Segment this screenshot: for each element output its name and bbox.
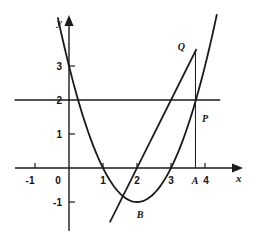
parabola-curve (58, 14, 217, 202)
x-tick-label-3: 3 (168, 175, 174, 186)
x-axis-label: x (235, 172, 242, 184)
x-axis-ticks (35, 163, 205, 168)
point-label-Q: Q (178, 41, 185, 52)
y-axis-label: y (55, 16, 62, 28)
graph-figure: y x -1 0 1 2 3 4 -1 1 2 3 A B P Q (0, 0, 257, 241)
y-tick-label--1: -1 (53, 197, 62, 208)
x-tick-label--1: -1 (26, 175, 35, 186)
point-label-B: B (136, 209, 144, 220)
x-tick-label-4: 4 (203, 175, 209, 186)
y-tick-label-3: 3 (56, 61, 62, 72)
coordinate-plot: y x -1 0 1 2 3 4 -1 1 2 3 A B P Q (0, 0, 257, 241)
y-tick-label-1: 1 (56, 129, 62, 140)
y-tick-label-2: 2 (56, 95, 62, 106)
x-tick-label-1: 1 (100, 175, 106, 186)
x-tick-label-2: 2 (134, 175, 140, 186)
point-label-A: A (191, 175, 199, 186)
point-label-P: P (202, 113, 209, 124)
x-tick-label-0: 0 (55, 175, 61, 186)
y-axis-arrowhead (64, 15, 73, 26)
